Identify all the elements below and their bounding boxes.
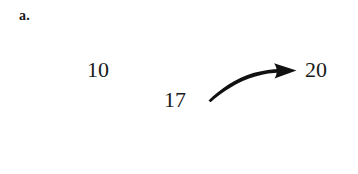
number-twenty: 20 — [305, 58, 327, 82]
number-seventeen: 17 — [164, 88, 186, 112]
part-label: a. — [19, 7, 30, 25]
arrow-shaft — [209, 69, 280, 102]
worksheet-figure: a. 10 17 20 — [0, 0, 358, 174]
number-ten: 10 — [87, 58, 109, 82]
arrow-head — [274, 63, 297, 78]
